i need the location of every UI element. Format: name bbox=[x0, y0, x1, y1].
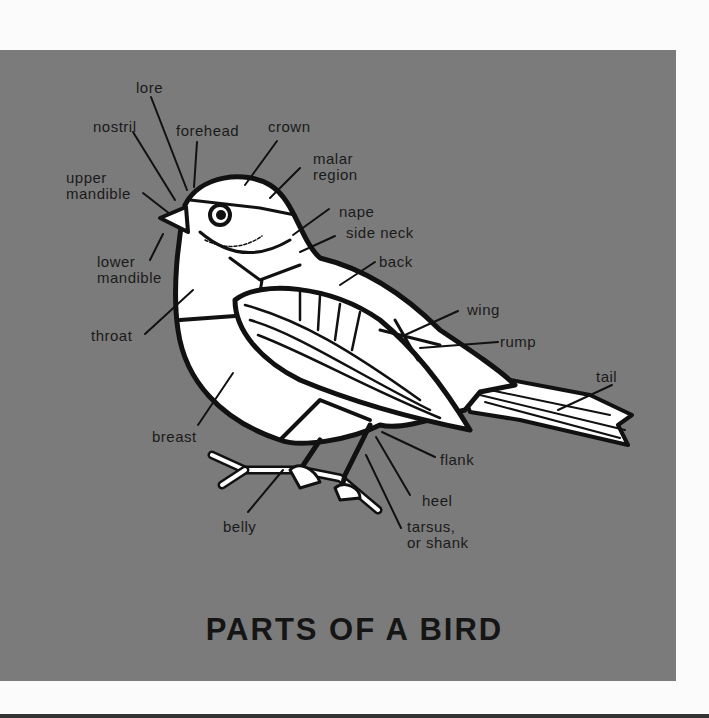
label-rump: rump bbox=[500, 334, 536, 350]
label-tarsus: tarsus, or shank bbox=[407, 519, 469, 551]
label-forehead: forehead bbox=[176, 123, 239, 139]
label-wing: wing bbox=[467, 302, 500, 318]
label-side-neck: side neck bbox=[346, 225, 414, 241]
label-breast: breast bbox=[152, 429, 197, 445]
label-nape: nape bbox=[339, 204, 374, 220]
label-upper-mandible: upper mandible bbox=[66, 170, 131, 202]
label-lower-mandible: lower mandible bbox=[97, 254, 162, 286]
label-heel: heel bbox=[422, 493, 452, 509]
diagram-title: PARTS OF A BIRD bbox=[0, 612, 709, 648]
label-back: back bbox=[379, 254, 413, 270]
label-nostril: nostril bbox=[93, 119, 137, 135]
label-flank: flank bbox=[440, 452, 474, 468]
bird-illustration bbox=[0, 0, 709, 718]
label-malar-region: malar region bbox=[313, 151, 358, 183]
label-throat: throat bbox=[91, 328, 132, 344]
label-belly: belly bbox=[223, 519, 256, 535]
label-tail: tail bbox=[596, 369, 617, 385]
label-lore: lore bbox=[136, 80, 163, 96]
bottom-divider bbox=[0, 714, 709, 718]
label-crown: crown bbox=[268, 119, 311, 135]
